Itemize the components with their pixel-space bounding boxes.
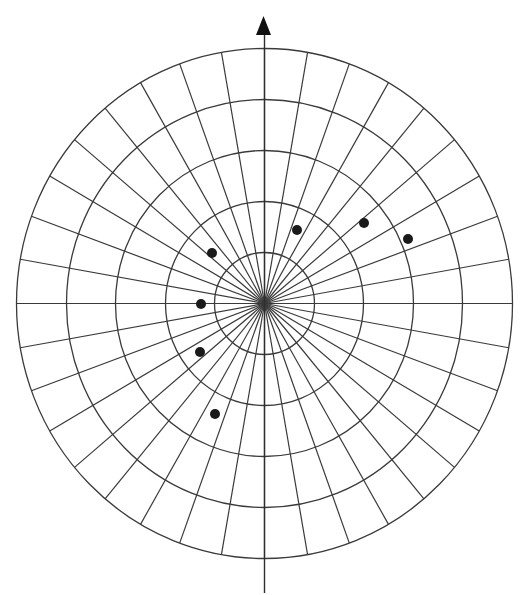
data-point	[292, 225, 302, 235]
polar-grid-diagram	[0, 0, 520, 595]
data-point	[196, 299, 206, 309]
data-point	[207, 248, 217, 258]
data-point	[403, 234, 413, 244]
data-point	[195, 347, 205, 357]
data-point	[359, 218, 369, 228]
data-point	[210, 409, 220, 419]
north-arrow-icon	[256, 16, 271, 35]
